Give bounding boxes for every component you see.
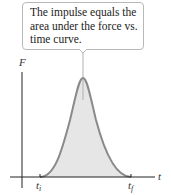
callout-line-3: time curve. <box>30 33 143 47</box>
callout-line-2: area under the force vs. <box>30 20 143 34</box>
x-axis-label: t <box>158 170 161 182</box>
area-under-curve <box>40 78 131 177</box>
y-axis-label: F <box>19 56 26 68</box>
callout-line-1: The impulse equals the <box>30 6 143 20</box>
t-final-label: tf <box>128 179 133 193</box>
callout-box: The impulse equals the area under the fo… <box>22 2 144 50</box>
t-initial-label: ti <box>36 179 41 193</box>
